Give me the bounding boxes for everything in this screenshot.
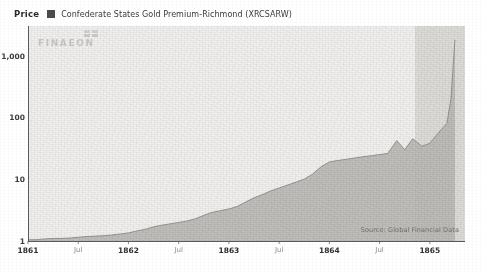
x-tick-label: 1861: [18, 246, 39, 255]
x-tick-label: 1862: [118, 246, 139, 255]
y-tick-label: 100: [9, 113, 25, 122]
finaeon-watermark: FINAEON: [38, 38, 95, 48]
y-axis-title: Price: [14, 9, 39, 19]
finaeon-squares-logo-icon: [84, 30, 99, 38]
source-attribution: Source: Global Financial Data: [361, 226, 459, 234]
legend-series-label: Confederate States Gold Premium-Richmond…: [61, 10, 292, 19]
series-area-chart: [28, 26, 465, 241]
legend-color-swatch: [47, 10, 55, 18]
x-tick-label: 1863: [218, 246, 239, 255]
y-tick-label: 1,000: [1, 51, 25, 60]
chart-legend-header: Price Confederate States Gold Premium-Ri…: [14, 9, 292, 19]
y-axis-line: [28, 26, 29, 241]
plot-area: FINAEON Source: Global Financial Data 1,…: [28, 26, 465, 241]
watermark-label: FINAEON: [38, 38, 95, 48]
chart-page: Price Confederate States Gold Premium-Ri…: [0, 0, 481, 272]
x-tick-label: Jul: [74, 246, 82, 254]
x-tick-label: 1865: [419, 246, 440, 255]
series-area-fill: [28, 40, 455, 241]
x-tick-label: Jul: [275, 246, 283, 254]
y-tick-label: 1: [20, 237, 25, 246]
x-tick-label: Jul: [375, 246, 383, 254]
x-axis-line: [28, 241, 465, 242]
x-tick-label: Jul: [174, 246, 182, 254]
y-tick-label: 10: [15, 175, 25, 184]
x-tick-label: 1864: [319, 246, 340, 255]
